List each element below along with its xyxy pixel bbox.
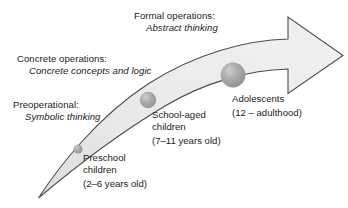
stage-name-preoperational: Preoperational: xyxy=(13,99,101,111)
age-group-adolescents: Adolescents (12 – adulthood) xyxy=(232,93,302,119)
stage-label-concrete-operations: Concrete operations: Concrete concepts a… xyxy=(17,53,151,76)
age-group-adolescents-line1: Adolescents xyxy=(232,93,302,105)
adolescents-dot xyxy=(221,63,246,88)
age-group-preschool: Preschool children (2–6 years old) xyxy=(83,152,147,190)
age-group-preschool-line1: Preschool xyxy=(83,152,147,164)
stage-desc-formal: Abstract thinking xyxy=(134,22,218,34)
stage-desc-concrete: Concrete concepts and logic xyxy=(17,65,151,77)
age-group-preschool-line2: children xyxy=(83,164,147,176)
age-group-school-aged-age: (7–11 years old) xyxy=(152,135,221,147)
stage-name-formal: Formal operations: xyxy=(134,10,218,22)
stage-label-formal-operations: Formal operations: Abstract thinking xyxy=(134,10,218,33)
age-group-school-aged-line1: School-aged xyxy=(152,109,221,121)
age-group-school-aged-line2: children xyxy=(152,121,221,133)
preschool-dot xyxy=(73,144,82,153)
age-group-school-aged: School-aged children (7–11 years old) xyxy=(152,109,221,147)
age-group-adolescents-age: (12 – adulthood) xyxy=(232,107,302,119)
development-stages-diagram: Formal operations: Abstract thinking Con… xyxy=(0,0,348,208)
stage-desc-preoperational: Symbolic thinking xyxy=(13,111,101,123)
stage-label-preoperational: Preoperational: Symbolic thinking xyxy=(13,99,101,122)
stage-name-concrete: Concrete operations: xyxy=(17,53,151,65)
age-group-preschool-age: (2–6 years old) xyxy=(83,178,147,190)
school-aged-dot xyxy=(140,92,156,108)
